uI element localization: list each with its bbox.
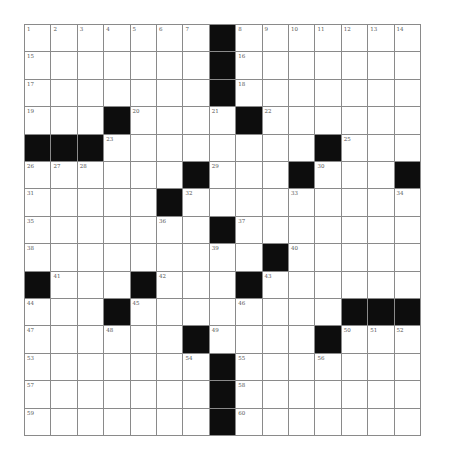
- grid-cell[interactable]: [288, 380, 314, 407]
- grid-cell[interactable]: [262, 380, 288, 407]
- grid-cell[interactable]: [50, 79, 76, 106]
- grid-cell[interactable]: [209, 271, 235, 298]
- grid-cell[interactable]: [262, 134, 288, 161]
- grid-cell[interactable]: 49: [209, 325, 235, 352]
- grid-cell[interactable]: [394, 271, 420, 298]
- grid-cell[interactable]: 45: [130, 298, 156, 325]
- grid-cell[interactable]: [182, 216, 208, 243]
- grid-cell[interactable]: [367, 243, 393, 270]
- grid-cell[interactable]: [367, 353, 393, 380]
- grid-cell[interactable]: [288, 79, 314, 106]
- grid-cell[interactable]: 44: [24, 298, 50, 325]
- grid-cell[interactable]: [367, 188, 393, 215]
- grid-cell[interactable]: [156, 134, 182, 161]
- grid-cell[interactable]: [130, 51, 156, 78]
- grid-cell[interactable]: [103, 271, 129, 298]
- grid-cell[interactable]: [288, 51, 314, 78]
- grid-cell[interactable]: [262, 408, 288, 435]
- grid-cell[interactable]: 32: [182, 188, 208, 215]
- grid-cell[interactable]: [156, 79, 182, 106]
- grid-cell[interactable]: 42: [156, 271, 182, 298]
- grid-cell[interactable]: [50, 353, 76, 380]
- grid-cell[interactable]: 56: [314, 353, 340, 380]
- grid-cell[interactable]: [103, 353, 129, 380]
- grid-cell[interactable]: 27: [50, 161, 76, 188]
- grid-cell[interactable]: [367, 216, 393, 243]
- grid-cell[interactable]: [182, 408, 208, 435]
- grid-cell[interactable]: [341, 188, 367, 215]
- grid-cell[interactable]: [103, 380, 129, 407]
- grid-cell[interactable]: [209, 134, 235, 161]
- grid-cell[interactable]: [314, 380, 340, 407]
- grid-cell[interactable]: [394, 79, 420, 106]
- grid-cell[interactable]: 8: [235, 24, 261, 51]
- grid-cell[interactable]: 55: [235, 353, 261, 380]
- grid-cell[interactable]: [156, 106, 182, 133]
- grid-cell[interactable]: [341, 51, 367, 78]
- grid-cell[interactable]: [182, 106, 208, 133]
- grid-cell[interactable]: [156, 353, 182, 380]
- grid-cell[interactable]: [367, 106, 393, 133]
- grid-cell[interactable]: [235, 325, 261, 352]
- grid-cell[interactable]: 21: [209, 106, 235, 133]
- grid-cell[interactable]: [103, 243, 129, 270]
- grid-cell[interactable]: [262, 325, 288, 352]
- grid-cell[interactable]: 9: [262, 24, 288, 51]
- grid-cell[interactable]: [341, 271, 367, 298]
- grid-cell[interactable]: [103, 216, 129, 243]
- grid-cell[interactable]: 19: [24, 106, 50, 133]
- grid-cell[interactable]: 31: [24, 188, 50, 215]
- grid-cell[interactable]: [50, 216, 76, 243]
- grid-cell[interactable]: 57: [24, 380, 50, 407]
- grid-cell[interactable]: 22: [262, 106, 288, 133]
- grid-cell[interactable]: 29: [209, 161, 235, 188]
- grid-cell[interactable]: [288, 216, 314, 243]
- grid-cell[interactable]: [288, 134, 314, 161]
- grid-cell[interactable]: [314, 51, 340, 78]
- grid-cell[interactable]: [50, 188, 76, 215]
- grid-cell[interactable]: [77, 106, 103, 133]
- grid-cell[interactable]: [156, 243, 182, 270]
- grid-cell[interactable]: 17: [24, 79, 50, 106]
- grid-cell[interactable]: 41: [50, 271, 76, 298]
- grid-cell[interactable]: [182, 271, 208, 298]
- grid-cell[interactable]: 4: [103, 24, 129, 51]
- grid-cell[interactable]: [314, 298, 340, 325]
- grid-cell[interactable]: [103, 161, 129, 188]
- grid-cell[interactable]: [262, 298, 288, 325]
- grid-cell[interactable]: [341, 408, 367, 435]
- grid-cell[interactable]: 10: [288, 24, 314, 51]
- grid-cell[interactable]: [394, 51, 420, 78]
- grid-cell[interactable]: [314, 243, 340, 270]
- grid-cell[interactable]: [130, 79, 156, 106]
- grid-cell[interactable]: [394, 134, 420, 161]
- grid-cell[interactable]: [394, 216, 420, 243]
- grid-cell[interactable]: 26: [24, 161, 50, 188]
- grid-cell[interactable]: 25: [341, 134, 367, 161]
- grid-cell[interactable]: [209, 188, 235, 215]
- grid-cell[interactable]: [50, 298, 76, 325]
- grid-cell[interactable]: [103, 408, 129, 435]
- grid-cell[interactable]: [314, 408, 340, 435]
- grid-cell[interactable]: [314, 79, 340, 106]
- grid-cell[interactable]: [262, 353, 288, 380]
- grid-cell[interactable]: [50, 380, 76, 407]
- grid-cell[interactable]: [394, 243, 420, 270]
- grid-cell[interactable]: 28: [77, 161, 103, 188]
- grid-cell[interactable]: [367, 161, 393, 188]
- grid-cell[interactable]: 59: [24, 408, 50, 435]
- grid-cell[interactable]: 60: [235, 408, 261, 435]
- grid-cell[interactable]: [288, 325, 314, 352]
- grid-cell[interactable]: [288, 408, 314, 435]
- grid-cell[interactable]: [130, 161, 156, 188]
- grid-cell[interactable]: 47: [24, 325, 50, 352]
- grid-cell[interactable]: [367, 79, 393, 106]
- grid-cell[interactable]: [77, 188, 103, 215]
- grid-cell[interactable]: [50, 106, 76, 133]
- grid-cell[interactable]: [262, 79, 288, 106]
- grid-cell[interactable]: [156, 408, 182, 435]
- grid-cell[interactable]: 12: [341, 24, 367, 51]
- grid-cell[interactable]: 36: [156, 216, 182, 243]
- grid-cell[interactable]: 2: [50, 24, 76, 51]
- grid-cell[interactable]: [50, 325, 76, 352]
